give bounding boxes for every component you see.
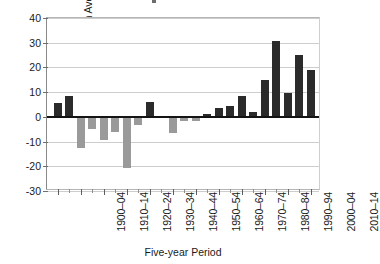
x-axis-category-label: 1900–04 (115, 192, 127, 244)
y-axis-tick-label: -10 (7, 137, 41, 147)
bar (134, 117, 142, 126)
x-axis-category-label: 1940–44 (207, 192, 219, 244)
gridline (47, 166, 319, 167)
bar (169, 117, 177, 133)
x-axis-category-label: 1930–34 (184, 192, 196, 244)
bar (295, 55, 303, 117)
bar (307, 70, 315, 117)
x-axis-category-label: 1970–74 (276, 192, 288, 244)
bar (77, 117, 85, 148)
y-axis-tick (43, 92, 48, 93)
y-axis-tick (43, 142, 48, 143)
x-axis-category-label: 1960–64 (253, 192, 265, 244)
y-axis-tick (43, 43, 48, 44)
y-axis-tick (43, 166, 48, 167)
bar (261, 80, 269, 117)
y-axis-tick (43, 18, 48, 19)
y-axis-tick-label: -20 (7, 161, 41, 171)
x-axis-category-label: 1950–54 (230, 192, 242, 244)
x-axis-category-label: 1910–14 (138, 192, 150, 244)
cropped-title-mark (152, 0, 156, 3)
x-axis-category-label: 2010–14 (368, 192, 380, 244)
y-axis-tick (43, 67, 48, 68)
y-axis-tick-label: 10 (7, 87, 41, 97)
bar (100, 117, 108, 140)
bar (238, 96, 246, 117)
x-axis-category-label: 1980–84 (299, 192, 311, 244)
zero-line (47, 116, 319, 118)
bar (88, 117, 96, 129)
x-axis-title: Five-year Period (46, 246, 320, 258)
bar (284, 93, 292, 116)
y-axis-tick-label: 40 (7, 13, 41, 23)
x-axis-category-label: 2000–04 (345, 192, 357, 244)
plot-area: 403020100-10-20-30 (46, 17, 320, 190)
gridline (47, 18, 319, 19)
y-axis-tick-label: -30 (7, 186, 41, 196)
bar (65, 96, 73, 117)
x-axis-tick-labels: 1900–041910–141920–241930–341940–441950–… (46, 192, 320, 240)
x-axis-category-label: 1990–94 (322, 192, 334, 244)
x-axis-category-label: 1920–24 (161, 192, 173, 244)
bar (123, 117, 131, 168)
y-axis-tick-label: 20 (7, 62, 41, 72)
bar (272, 41, 280, 116)
bar (111, 117, 119, 132)
gridline (47, 142, 319, 143)
bar (54, 103, 62, 117)
y-axis-tick-label: 0 (7, 112, 41, 122)
y-axis-tick-label: 30 (7, 38, 41, 48)
bar (146, 102, 154, 117)
